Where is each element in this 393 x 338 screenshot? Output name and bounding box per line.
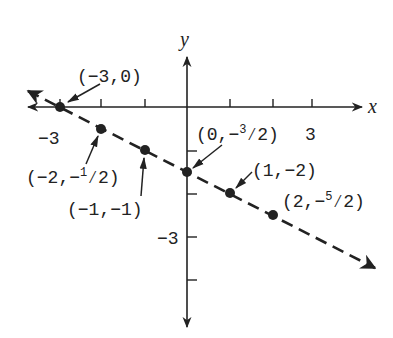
x-axis-label: x [367, 95, 377, 117]
point-1-neg2 [225, 188, 235, 198]
point-label-neg2-neghalf: (−2,−1⁄2) [26, 166, 120, 188]
label-prefix: (0,− [196, 125, 239, 145]
point-label-2-neg5half: (2,−5⁄2) [282, 190, 365, 212]
label-suffix: ⁄2) [87, 168, 119, 188]
point-label-neg1-neg1: (−1,−1) [67, 200, 143, 220]
label-prefix: (2,− [282, 192, 325, 212]
label-prefix: (−2,− [26, 168, 80, 188]
graph: x y −3 3 −3 (−3,0) (−2,−1⁄2) (−1,−1) (0,… [0, 0, 393, 338]
point-2-neg5half [268, 210, 278, 220]
point-label-1-neg2: (1,−2) [252, 161, 317, 181]
label-suffix: ⁄2) [332, 192, 364, 212]
point-label-neg3-0: (−3,0) [77, 67, 142, 87]
point-neg3-0 [55, 102, 65, 112]
x-tick-label-3: 3 [305, 125, 316, 145]
point-0-neg3half [182, 167, 192, 177]
x-tick-label-neg3: −3 [38, 129, 60, 149]
label-suffix: ⁄2) [246, 125, 278, 145]
point-neg1-neg1 [140, 145, 150, 155]
label-numerator: 3 [239, 123, 246, 137]
label-numerator: 1 [80, 166, 87, 180]
y-tick-label-neg3: −3 [157, 229, 179, 249]
point-neg2-neghalf [96, 124, 106, 134]
label-numerator: 5 [325, 190, 332, 204]
x-ticks [60, 99, 312, 107]
y-axis-label: y [178, 28, 189, 51]
point-label-0-neg3half: (0,−3⁄2) [196, 123, 279, 145]
